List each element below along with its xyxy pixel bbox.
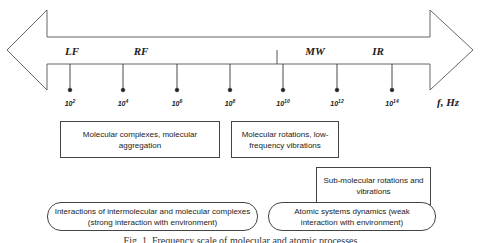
figure-caption: Fig. 1. Frequency scale of molecular and… [0, 236, 481, 243]
box-sub-molecular-rotations: Sub-molecular rotations and vibrations [316, 167, 431, 205]
tick-marks [68, 64, 394, 92]
tick-label-1e10: 1010 [276, 98, 289, 107]
tick-label-1e2: 102 [65, 98, 76, 107]
tick-label-1e6: 106 [172, 98, 183, 107]
tick-label-1e8: 108 [225, 98, 236, 107]
band-label-ir: IR [372, 45, 384, 57]
figure-caption-container: Fig. 1. Frequency scale of molecular and… [0, 236, 481, 243]
box-text: Molecular rotations, low-frequency vibra… [236, 129, 334, 151]
band-label-lf: LF [65, 45, 79, 57]
box-molecular-rotations: Molecular rotations, low-frequency vibra… [231, 121, 339, 158]
tick-label-1e14: 1014 [385, 98, 398, 107]
box-molecular-complexes: Molecular complexes, molecular aggregati… [60, 121, 220, 158]
tick-label-1e12: 1012 [330, 98, 343, 107]
frequency-scale-diagram: LF RF MW IR 102 104 106 108 1010 1012 10… [0, 0, 481, 243]
box-text: Sub-molecular rotations and vibrations [321, 175, 426, 197]
regime-text: Interactions of intermolecular and molec… [54, 206, 251, 228]
band-label-rf: RF [134, 45, 149, 57]
regime-text: Atomic systems dynamics (weak interactio… [275, 206, 429, 228]
box-text: Molecular complexes, molecular aggregati… [65, 129, 215, 151]
band-label-mw: MW [305, 45, 325, 57]
axis-unit-label: f, Hz [437, 96, 459, 108]
regime-weak-interaction: Atomic systems dynamics (weak interactio… [268, 202, 436, 231]
tick-label-1e4: 104 [118, 98, 129, 107]
regime-strong-interaction: Interactions of intermolecular and molec… [47, 202, 258, 231]
